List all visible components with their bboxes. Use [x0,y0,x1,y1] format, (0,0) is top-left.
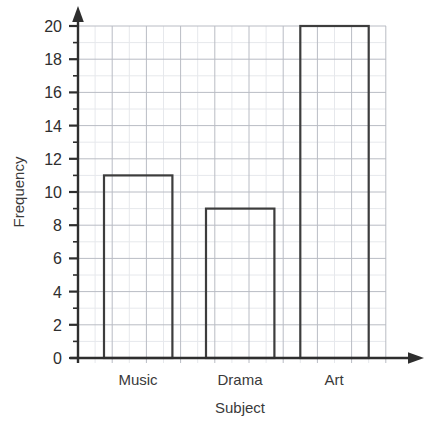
y-tick-label-2: 2 [53,317,62,334]
x-axis-title: Subject [215,399,266,416]
y-tick-label-0: 0 [53,350,62,367]
y-tick-label-16: 16 [44,84,62,101]
y-tick-label-10: 10 [44,184,62,201]
chart-background [0,0,442,433]
y-tick-label-4: 4 [53,284,62,301]
x-label-art: Art [324,371,344,388]
x-label-drama: Drama [217,371,263,388]
y-tick-label-8: 8 [53,217,62,234]
y-tick-label-18: 18 [44,51,62,68]
y-tick-label-14: 14 [44,118,62,135]
y-tick-label-6: 6 [53,250,62,267]
chart-svg: 20 18 16 14 12 10 8 6 4 2 0 Frequency Mu… [0,0,442,433]
y-tick-label-20: 20 [44,18,62,35]
bar-chart: 20 18 16 14 12 10 8 6 4 2 0 Frequency Mu… [0,0,442,433]
x-label-music: Music [118,371,158,388]
y-tick-label-12: 12 [44,151,62,168]
y-axis-title: Frequency [10,156,27,227]
